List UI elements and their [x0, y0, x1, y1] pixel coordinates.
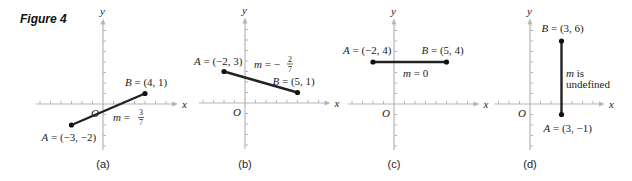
svg-text:7: 7 [288, 65, 292, 74]
y-axis-label: y [99, 5, 105, 17]
point-A-label: A = (−3, −2) [41, 131, 97, 144]
point-A [69, 122, 74, 127]
x-axis-label: x [483, 98, 489, 110]
y-axis-label: y [390, 5, 396, 17]
svg-text:m = 0: m = 0 [403, 67, 429, 79]
svg-text:2: 2 [288, 55, 292, 64]
x-axis-label: x [334, 97, 340, 109]
svg-text:3: 3 [139, 108, 143, 117]
panel-a: xyOA = (−3, −2)B = (4, 1)m = 37(a) [36, 5, 187, 171]
panel-c: xyOA = (−2, 4)B = (5, 4)m = 0(c) [342, 5, 489, 171]
point-B [295, 90, 300, 95]
panel-caption: (d) [523, 158, 536, 170]
x-axis-label: x [181, 98, 187, 110]
point-A [370, 59, 375, 64]
x-arrow-icon [172, 102, 178, 107]
svg-text:7: 7 [139, 118, 143, 127]
slope-label: m = −27 [254, 55, 293, 74]
point-B [142, 91, 147, 96]
slope-label: m isundefined [566, 67, 610, 91]
point-B-label: B = (3, 6) [542, 22, 585, 35]
y-arrow-icon [392, 19, 397, 25]
slope-figure: xyOA = (−3, −2)B = (4, 1)m = 37(a)xyOA =… [0, 0, 632, 181]
point-B-label: B = (5, 1) [273, 75, 316, 88]
point-A-label: A = (3, −1) [543, 122, 593, 135]
point-A [221, 69, 226, 74]
point-B-label: B = (5, 4) [422, 44, 465, 57]
svg-text:m =: m = [113, 111, 130, 123]
x-arrow-icon [599, 102, 605, 107]
origin-label: O [518, 107, 526, 119]
panel-d: xyOA = (3, −1)B = (3, 6)m isundefined(d) [495, 5, 615, 171]
point-A-label: A = (−2, 4) [342, 44, 392, 57]
point-A [559, 112, 564, 117]
x-axis-label: x [608, 98, 614, 110]
origin-label: O [382, 107, 390, 119]
panel-caption: (c) [388, 158, 401, 170]
point-B-label: B = (4, 1) [125, 76, 168, 89]
y-arrow-icon [528, 19, 533, 25]
x-arrow-icon [474, 102, 480, 107]
svg-text:m is: m is [566, 67, 584, 79]
y-arrow-icon [243, 18, 248, 24]
svg-text:m = −: m = − [254, 58, 280, 70]
segment-AB [72, 94, 146, 126]
y-axis-label: y [241, 4, 247, 16]
slope-label: m = 37 [113, 108, 144, 127]
point-B [559, 38, 564, 43]
svg-text:undefined: undefined [566, 78, 610, 90]
point-B [444, 59, 449, 64]
point-A-label: A = (−2, 3) [193, 55, 243, 68]
panel-caption: (a) [96, 158, 109, 170]
slope-label: m = 0 [403, 67, 429, 79]
panel-b: xyOA = (−2, 3)B = (5, 1)m = −27(b) [193, 4, 340, 171]
origin-label: O [233, 106, 241, 118]
y-axis-label: y [526, 5, 532, 17]
panel-caption: (b) [238, 158, 251, 170]
y-arrow-icon [101, 19, 106, 25]
x-arrow-icon [325, 101, 331, 106]
